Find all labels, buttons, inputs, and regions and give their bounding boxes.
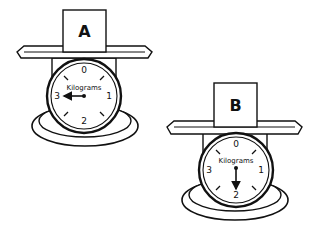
dial-b-number-0: 0 xyxy=(233,139,239,149)
box-b-label: B xyxy=(229,96,241,115)
box-a-label: A xyxy=(78,22,91,41)
dial-b-pivot xyxy=(234,166,238,170)
dial-b-number-1: 1 xyxy=(258,165,264,175)
box-b: B xyxy=(214,83,257,127)
scale-a-dial: 0 1 2 3 Kilograms xyxy=(47,59,121,133)
scale-b: B 0 1 2 3 Kilograms xyxy=(167,83,302,220)
dial-a-number-0: 0 xyxy=(81,65,87,75)
dial-a-unit-label: Kilograms xyxy=(67,84,102,92)
dial-a-pivot xyxy=(82,94,86,98)
dial-a-number-1: 1 xyxy=(106,91,112,101)
dial-b-number-2: 2 xyxy=(233,190,239,200)
dial-a-number-2: 2 xyxy=(81,116,87,126)
dial-b-number-3: 3 xyxy=(206,165,212,175)
scale-b-dial: 0 1 2 3 Kilograms xyxy=(199,133,273,207)
box-a: A xyxy=(63,10,106,52)
dial-a-number-3: 3 xyxy=(54,91,60,101)
scales-diagram: A 0 1 2 3 Kilograms xyxy=(0,0,320,231)
scale-a: A 0 1 2 3 Kilograms xyxy=(17,10,152,146)
dial-b-unit-label: Kilograms xyxy=(219,157,254,165)
